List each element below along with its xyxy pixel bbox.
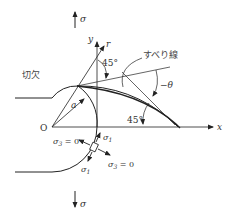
origin-label: O: [40, 123, 47, 133]
slip-line-label: すべり線: [143, 49, 178, 60]
angle-top-label: 45°: [102, 58, 118, 68]
y-axis-label: y: [87, 34, 94, 44]
radius-arrow: [52, 99, 84, 127]
slip-line-pointer: [122, 58, 142, 87]
slip-line-diagram: σ σ 切欠 x y r O a すべり線 −θ 45° 45°: [0, 0, 231, 217]
sigma-bottom-label: σ: [80, 199, 87, 209]
angle-arc-bottom: [143, 103, 149, 124]
sigma1-upper-label: σ1: [103, 133, 112, 143]
theta-angle-arc: [153, 70, 157, 96]
sigma1-lower-label: σ1: [81, 165, 90, 175]
angle-bottom-label: 45°: [127, 115, 143, 125]
theta-angle-label: −θ: [160, 80, 174, 90]
sigma3-right-label: σ3 = 0: [108, 160, 134, 170]
notch-label: 切欠: [22, 69, 40, 80]
x-axis-label: x: [217, 122, 222, 132]
radius-label: a: [71, 100, 76, 110]
r-axis-label: r: [106, 39, 111, 49]
sigma3-left-label: σ3 = 0: [53, 137, 79, 147]
sigma-top-label: σ: [80, 14, 87, 24]
notch-outline: [15, 86, 97, 172]
tangent-line-theta: [77, 67, 170, 86]
